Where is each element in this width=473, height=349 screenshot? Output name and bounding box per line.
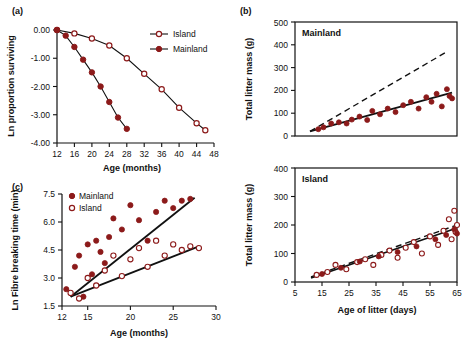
panel-c-xlabel: Age (months): [110, 328, 168, 338]
panel-a-xtick-24: 24: [105, 149, 115, 159]
panel-b-top-ytick-400: 400: [274, 40, 288, 50]
panel-c-legend-island: Island: [79, 203, 102, 213]
panel-c-island-points: [68, 238, 201, 301]
panel-a-legend-island: Island: [173, 29, 196, 39]
panel-b-bottom-ytick-400: 400: [274, 164, 288, 174]
panel-b-top-ytick-200: 200: [274, 85, 288, 95]
panel-a-tag: (a): [12, 6, 23, 16]
panel-a-ytick-3: -3.00: [31, 110, 51, 120]
panel-a-xtick-12: 12: [52, 149, 62, 159]
panel-c-xtick-25: 25: [168, 312, 178, 322]
panel-c-xtick-15: 15: [83, 312, 93, 322]
panel-a-xtick-48: 48: [209, 149, 219, 159]
panel-c-island-fit: [71, 246, 199, 296]
panel-a-svg: (a) 0.00 -1.00 -2.00 -3.00 -4.00: [0, 0, 230, 175]
panel-a-ytick-1: -1.00: [31, 53, 51, 63]
panel-c-ytick-60: 6.0: [43, 217, 55, 227]
panel-a-ytick-0: 0.00: [33, 25, 50, 35]
panel-b-svg: (b) Mainland 0 100 200 300 400 500 Tot: [232, 0, 473, 349]
panel-a-ytick-4: -4.00: [31, 138, 51, 148]
panel-a-xtick-32: 32: [139, 149, 149, 159]
panel-a-legend: Island Mainland: [150, 29, 208, 54]
panel-b-xtick-35: 35: [371, 288, 381, 298]
panel-c-ytick-45: 4.5: [43, 245, 55, 255]
panel-b-bottom-title: Island: [302, 174, 328, 184]
panel-b-bottom-solid-fit-hidden: [311, 225, 457, 277]
panel-b-bottom: Island 0 100 200 300 400: [244, 164, 462, 316]
panel-a-ytick-2: -2.00: [31, 82, 51, 92]
panel-c-xtick-12: 12: [57, 312, 67, 322]
panel-b-top-ytick-100: 100: [274, 108, 288, 118]
panel-b-bottom-ytick-300: 300: [274, 192, 288, 202]
panel-c: (c) 7.5 6.0 4.5 3.0 1.5 12 15 20: [0, 176, 232, 349]
panel-b-bottom-ytick-200: 200: [274, 220, 288, 230]
panel-a-series-mainland: [54, 27, 129, 131]
panel-b-xtick-25: 25: [344, 288, 354, 298]
panel-b-bottom-ytick-100: 100: [274, 249, 288, 259]
panel-c-xtick-30: 30: [211, 312, 221, 322]
panel-a-xtick-20: 20: [87, 149, 97, 159]
panel-a-legend-mainland: Mainland: [173, 44, 208, 54]
panel-b-top-ytick-0: 0: [283, 131, 288, 141]
panel-b-bottom-x-ticks: 5 15 25 35 45 55 65: [293, 282, 462, 298]
panel-b-xtick-5: 5: [293, 288, 298, 298]
panel-c-xtick-20: 20: [126, 312, 136, 322]
panel-c-ytick-30: 3.0: [43, 273, 55, 283]
panel-c-ylabel: Ln Fibre breaking time (min): [10, 189, 20, 310]
panel-b-xlabel: Age of litter (days): [337, 305, 416, 315]
panel-b: (b) Mainland 0 100 200 300 400 500 Tot: [232, 0, 473, 349]
panel-a-x-ticks: 12 16 20 24 28 32 36 40 44 48: [52, 143, 219, 159]
panel-a-xtick-36: 36: [157, 149, 167, 159]
panel-a-y-ticks: 0.00 -1.00 -2.00 -3.00 -4.00: [31, 25, 57, 148]
panel-b-bottom-island-points: [314, 208, 459, 277]
panel-a-xlabel: Age (months): [103, 163, 161, 173]
panel-a-xtick-40: 40: [174, 149, 184, 159]
panel-b-top-dashed-fit: [310, 52, 447, 132]
panel-b-top-ytick-500: 500: [274, 18, 288, 28]
panel-b-bottom-ytick-0: 0: [283, 277, 288, 287]
panel-b-bottom-ylabel: Total litter mass (g): [244, 184, 254, 266]
panel-c-y-ticks: 7.5 6.0 4.5 3.0 1.5: [43, 189, 62, 311]
panel-c-x-ticks: 12 15 20 25 30: [57, 306, 221, 322]
panel-b-top: Mainland 0 100 200 300 400 500 Total lit…: [244, 18, 457, 142]
panel-a-xtick-44: 44: [192, 149, 202, 159]
panel-a: (a) 0.00 -1.00 -2.00 -3.00 -4.00: [0, 0, 230, 175]
panel-c-svg: (c) 7.5 6.0 4.5 3.0 1.5 12 15 20: [0, 176, 232, 349]
panel-b-tag: (b): [240, 6, 252, 16]
panel-a-ylabel: Ln proportion surviving: [6, 35, 16, 137]
panel-b-xtick-45: 45: [398, 288, 408, 298]
panel-c-legend: Mainland Island: [69, 191, 113, 213]
panel-c-ytick-15: 1.5: [43, 301, 55, 311]
panel-c-ytick-75: 7.5: [43, 189, 55, 199]
panel-b-top-title: Mainland: [302, 28, 341, 38]
panel-b-top-ytick-300: 300: [274, 63, 288, 73]
panel-b-top-ylabel: Total litter mass (g): [244, 38, 254, 120]
panel-c-legend-mainland: Mainland: [79, 191, 114, 201]
panel-b-xtick-65: 65: [452, 288, 462, 298]
panel-b-xtick-15: 15: [317, 288, 327, 298]
panel-a-xtick-16: 16: [70, 149, 80, 159]
panel-a-xtick-28: 28: [122, 149, 132, 159]
panel-b-xtick-55: 55: [425, 288, 435, 298]
